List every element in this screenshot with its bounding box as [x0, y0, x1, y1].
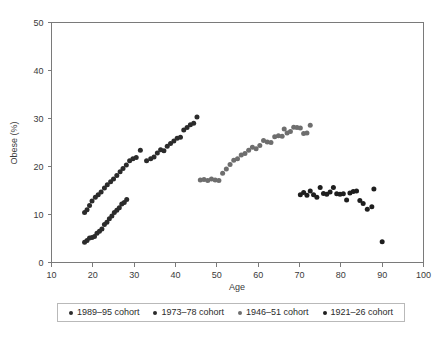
x-tick-label: 50 — [212, 270, 222, 280]
obesity-by-age-cohort-chart: 102030405060708090100 01020304050 Age Ob… — [0, 0, 446, 339]
scatter-point — [331, 185, 336, 190]
scatter-point — [308, 188, 313, 193]
scatter-point — [161, 148, 166, 153]
scatter-point — [87, 203, 92, 208]
scatter-point — [138, 148, 143, 153]
scatter-point — [369, 204, 374, 209]
chart-canvas: 102030405060708090100 01020304050 Age Ob… — [0, 0, 446, 339]
scatter-point — [304, 193, 309, 198]
scatter-point — [298, 126, 303, 131]
scatter-point — [280, 134, 285, 139]
plot-frame — [52, 23, 424, 263]
legend-dot-icon — [153, 311, 157, 315]
x-tick-label: 90 — [377, 270, 387, 280]
legend-label: 1989–95 cohort — [77, 308, 140, 317]
x-tick-label: 30 — [129, 270, 139, 280]
y-tick-label: 10 — [33, 210, 43, 220]
series-2 — [198, 123, 313, 183]
scatter-point — [114, 173, 119, 178]
scatter-point — [85, 207, 90, 212]
y-tick-label: 50 — [33, 18, 43, 28]
scatter-point — [191, 121, 196, 126]
x-tick-label: 70 — [294, 270, 304, 280]
chart-legend: 1989–95 cohort1973–78 cohort1946–51 coho… — [57, 303, 405, 322]
scatter-point — [254, 146, 259, 151]
scatter-point — [354, 188, 359, 193]
y-tick-label: 20 — [33, 162, 43, 172]
x-tick-label: 20 — [88, 270, 98, 280]
legend-item-3: 1921–26 cohort — [323, 308, 394, 317]
scatter-point — [124, 163, 129, 168]
legend-item-2: 1946–51 cohort — [238, 308, 309, 317]
scatter-point — [124, 197, 129, 202]
legend-dot-icon — [238, 311, 242, 315]
scatter-point — [365, 207, 370, 212]
legend-item-1: 1973–78 cohort — [153, 308, 224, 317]
legend-dot-icon — [323, 311, 327, 315]
scatter-point — [371, 187, 376, 192]
scatter-point — [99, 226, 104, 231]
legend-label: 1921–26 cohort — [331, 308, 394, 317]
y-axis-title: Obese (%) — [9, 121, 19, 164]
scatter-point — [220, 171, 225, 176]
y-axis-ticks: 01020304050 — [33, 18, 51, 268]
y-tick-label: 30 — [33, 114, 43, 124]
scatter-point — [318, 185, 323, 190]
scatter-point — [178, 135, 183, 140]
x-tick-label: 100 — [416, 270, 431, 280]
legend-label: 1973–78 cohort — [161, 308, 224, 317]
axes — [52, 23, 424, 263]
scatter-point — [308, 123, 313, 128]
x-tick-label: 40 — [170, 270, 180, 280]
scatter-point — [152, 154, 157, 159]
scatter-point — [90, 199, 95, 204]
scatter-point — [328, 189, 333, 194]
x-tick-label: 80 — [336, 270, 346, 280]
scatter-point — [268, 140, 273, 145]
scatter-point — [257, 143, 262, 148]
scatter-point — [194, 115, 199, 120]
legend-dot-icon — [69, 311, 73, 315]
scatter-point — [134, 155, 139, 160]
scatter-point — [344, 198, 349, 203]
x-axis-title: Age — [229, 282, 245, 292]
scatter-point — [224, 166, 229, 171]
legend-item-0: 1989–95 cohort — [69, 308, 140, 317]
x-axis-ticks: 102030405060708090100 — [46, 263, 431, 280]
x-tick-label: 10 — [46, 270, 56, 280]
scatter-point — [242, 151, 247, 156]
y-tick-label: 0 — [38, 258, 43, 268]
scatter-point — [216, 178, 221, 183]
scatter-point — [380, 239, 385, 244]
y-tick-label: 40 — [33, 66, 43, 76]
data-points — [82, 115, 385, 245]
scatter-point — [99, 189, 104, 194]
scatter-point — [341, 191, 346, 196]
scatter-point — [288, 129, 293, 134]
scatter-point — [228, 162, 233, 167]
series-1 — [82, 115, 199, 216]
legend-label: 1946–51 cohort — [246, 308, 309, 317]
scatter-point — [235, 156, 240, 161]
scatter-point — [361, 201, 366, 206]
scatter-point — [314, 195, 319, 200]
series-3 — [298, 185, 385, 244]
x-tick-label: 60 — [253, 270, 263, 280]
scatter-point — [304, 130, 309, 135]
